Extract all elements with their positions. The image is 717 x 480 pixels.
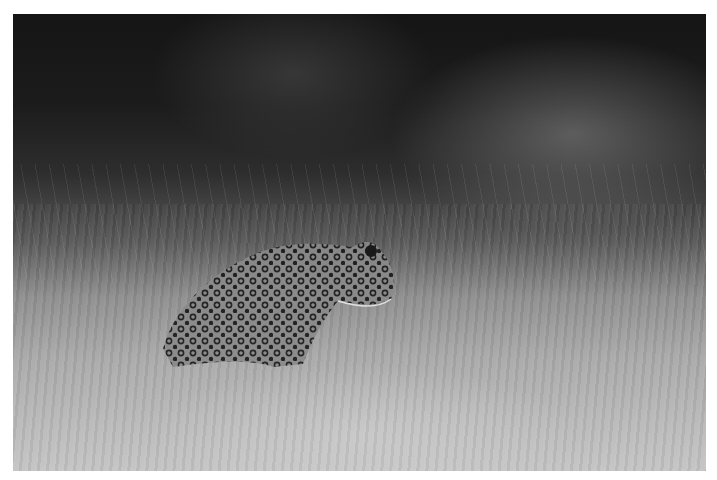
leopard-figure [153,229,398,369]
leopard-photo [13,14,706,471]
